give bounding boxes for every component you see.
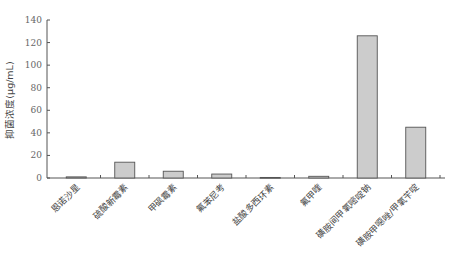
category-labels: 恩诺沙星硫酸新霉素甲砜霉素氟苯尼考盐酸多西环素氟甲喹磺胺间甲氧嘧啶钠磺胺甲噁唑/… <box>49 182 421 249</box>
x-tick-label: 恩诺沙星 <box>49 182 82 215</box>
x-axis <box>47 175 445 178</box>
bar <box>309 176 329 178</box>
y-tick-label: 80 <box>31 83 43 93</box>
bar <box>66 177 86 178</box>
y-tick-label: 60 <box>31 105 43 115</box>
x-tick-label: 氟甲喹 <box>297 182 324 209</box>
y-tick-label: 100 <box>25 60 42 70</box>
bar <box>357 36 377 178</box>
x-tick-label: 硫酸新霉素 <box>91 182 131 222</box>
y-tick-label: 140 <box>25 15 42 25</box>
y-axis-label: 抑菌浓度(μg/mL) <box>4 61 15 138</box>
bar <box>406 127 426 178</box>
bars <box>66 36 426 178</box>
bar <box>115 162 135 178</box>
y-tick-label: 120 <box>25 38 42 48</box>
y-axis: 020406080100120140 <box>25 15 50 183</box>
bar-chart: 020406080100120140 恩诺沙星硫酸新霉素甲砜霉素氟苯尼考盐酸多西… <box>0 0 453 267</box>
y-tick-label: 40 <box>31 128 43 138</box>
x-tick-label: 盐酸多西环素 <box>230 182 276 228</box>
bar <box>212 174 232 178</box>
x-tick-label: 氟苯尼考 <box>194 182 227 215</box>
y-tick-label: 0 <box>36 173 42 183</box>
bar <box>163 171 183 178</box>
bar <box>260 177 280 178</box>
x-tick-label: 甲砜霉素 <box>145 182 178 215</box>
y-tick-label: 20 <box>31 150 43 160</box>
